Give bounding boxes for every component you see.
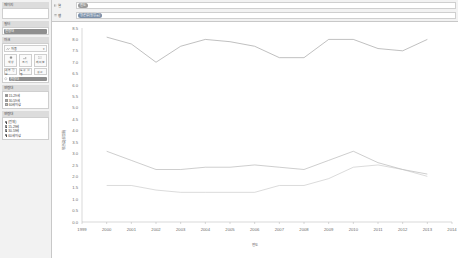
label-icon	[38, 56, 42, 60]
y-tick-label: 2.0	[72, 174, 78, 179]
x-tick-label: 2005	[225, 227, 235, 232]
shelves-area: 열 연도 행 평균값(실업률)	[52, 0, 458, 22]
columns-dropzone[interactable]: 연도	[76, 2, 456, 9]
x-tick-label: 2000	[102, 227, 112, 232]
y-tick-label: 0.0	[72, 220, 78, 225]
legend-swatch	[5, 99, 8, 102]
series-line-15-29세	[107, 37, 428, 62]
x-tick-label: 2012	[398, 227, 408, 232]
y-tick-label: 4.0	[72, 128, 78, 133]
x-tick-label: 2013	[423, 227, 433, 232]
pages-card: 페이지	[2, 2, 49, 19]
rows-dropzone[interactable]: 평균값(실업률)	[76, 12, 456, 19]
y-tick-label: 3.5	[72, 140, 78, 145]
y-tick-label: 1.0	[72, 197, 78, 202]
filter-legend-card: 연령대 (전체) 15-29세 30-59세 60세이상	[2, 111, 49, 140]
view-canvas: 평균값(실업률) 연도 0.00.51.01.52.02.53.03.54.04…	[52, 22, 458, 258]
color-legend-icon	[4, 77, 8, 81]
x-tick-label: 2011	[373, 227, 383, 232]
color-legend-body: 15-29세 30-59세 60세이상	[2, 91, 49, 109]
mark-buttons-grid: 색상 크기 레이블	[4, 54, 47, 76]
filters-card: 필터 연령대	[2, 21, 49, 35]
series-line-30-59세	[107, 151, 428, 174]
y-tick-label: 5.0	[72, 105, 78, 110]
filter-pill-age[interactable]: 연령대	[4, 29, 47, 34]
x-tick-label: 2014	[447, 227, 457, 232]
x-tick-label: 2009	[324, 227, 334, 232]
rows-icon	[54, 14, 57, 17]
legend-swatch	[5, 94, 8, 97]
columns-shelf[interactable]: 열 연도	[54, 2, 456, 10]
y-tick-label: 6.5	[72, 71, 78, 76]
marks-size-button[interactable]: 크기	[19, 54, 32, 67]
rows-shelf-label: 행	[54, 13, 76, 18]
columns-shelf-text: 열	[58, 3, 61, 8]
marks-card: 마크 자동 ▾ 색상	[2, 37, 49, 83]
marks-tooltip-label: 도구 설명	[20, 68, 31, 76]
y-tick-label: 5.5	[72, 94, 78, 99]
color-legend-card: 연령대 15-29세 30-59세 60세이상	[2, 85, 49, 109]
mark-type-selector[interactable]: 자동 ▾	[4, 45, 47, 52]
checkbox-icon[interactable]	[5, 134, 8, 137]
chevron-down-icon[interactable]: ▾	[43, 47, 45, 51]
y-tick-label: 4.5	[72, 117, 78, 122]
marks-detail-button[interactable]: 세부 정보	[4, 68, 17, 75]
filter-item-label: 60세이상	[8, 133, 21, 138]
y-tick-label: 0.5	[72, 208, 78, 213]
x-tick-label: 2002	[151, 227, 161, 232]
x-tick-label: 2004	[201, 227, 211, 232]
marks-body: 자동 ▾ 색상 크기	[2, 43, 49, 83]
automatic-icon	[6, 47, 10, 51]
marks-path-label: 경로	[37, 70, 43, 74]
marks-tooltip-button[interactable]: 도구 설명	[19, 68, 32, 75]
marks-color-pill-row: 연령대	[4, 77, 47, 82]
plot-wrapper: 평균값(실업률) 연도 0.00.51.01.52.02.53.03.54.04…	[52, 22, 458, 258]
x-tick-label: 2008	[299, 227, 309, 232]
line-chart: 0.00.51.01.52.02.53.03.54.04.55.05.56.06…	[52, 22, 458, 258]
y-tick-label: 1.5	[72, 185, 78, 190]
marks-color-button[interactable]: 색상	[4, 54, 17, 67]
mark-type-label: 자동	[11, 46, 17, 51]
columns-pill-year[interactable]: 연도	[78, 3, 88, 8]
marks-pill-age[interactable]: 연령대	[9, 77, 48, 82]
y-tick-label: 7.5	[72, 48, 78, 53]
marks-label-button[interactable]: 레이블	[34, 54, 47, 67]
marks-detail-label: 세부 정보	[5, 68, 16, 76]
marks-path-button[interactable]: 경로	[34, 68, 47, 75]
rows-shelf-text: 행	[58, 13, 61, 18]
rows-shelf[interactable]: 행 평균값(실업률)	[54, 11, 456, 19]
x-tick-label: 2010	[349, 227, 359, 232]
checkbox-icon[interactable]	[5, 121, 8, 124]
x-tick-label: 2001	[127, 227, 137, 232]
y-tick-label: 3.0	[72, 151, 78, 156]
y-tick-label: 2.5	[72, 163, 78, 168]
marks-label-label: 레이블	[36, 60, 45, 64]
sidebar: 페이지 필터 연령대 마크 자동 ▾	[0, 0, 52, 258]
y-tick-label: 7.0	[72, 60, 78, 65]
y-tick-label: 8.5	[72, 26, 78, 31]
color-icon	[9, 56, 13, 60]
tableau-worksheet: 페이지 필터 연령대 마크 자동 ▾	[0, 0, 458, 258]
pages-dropzone[interactable]	[2, 8, 49, 19]
x-tick-label: 2006	[250, 227, 260, 232]
x-tick-label: 1999	[77, 227, 87, 232]
size-icon	[23, 56, 27, 60]
columns-icon	[54, 4, 57, 7]
y-tick-label: 8.0	[72, 37, 78, 42]
x-tick-label: 2003	[176, 227, 186, 232]
y-tick-label: 6.0	[72, 83, 78, 88]
filters-dropzone[interactable]: 연령대	[2, 27, 49, 35]
filter-checkbox-row[interactable]: 60세이상	[5, 133, 47, 137]
marks-size-label: 크기	[22, 60, 28, 64]
marks-color-label: 색상	[8, 60, 14, 64]
rows-pill-avg-unemployment[interactable]: 평균값(실업률)	[78, 13, 102, 18]
checkbox-icon[interactable]	[5, 129, 8, 132]
legend-item[interactable]: 60세이상	[5, 102, 47, 106]
columns-shelf-label: 열	[54, 3, 76, 8]
filter-legend-body: (전체) 15-29세 30-59세 60세이상	[2, 117, 49, 140]
x-tick-label: 2007	[275, 227, 285, 232]
legend-swatch	[5, 103, 8, 106]
legend-item-label: 60세이상	[9, 102, 22, 107]
checkbox-icon[interactable]	[5, 125, 8, 128]
